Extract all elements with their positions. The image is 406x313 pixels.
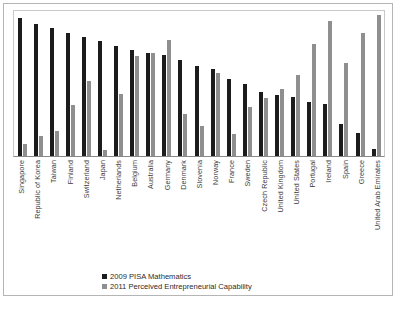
bar-group [127, 11, 143, 156]
bar-pisa-mathematics [146, 53, 150, 156]
bar-perceived-entrepreneurial-capability [377, 15, 381, 156]
bar-group [30, 11, 46, 156]
bar-group [255, 11, 271, 156]
bar-perceived-entrepreneurial-capability [23, 144, 27, 156]
x-axis-tick: Germany [159, 158, 175, 266]
bar-pisa-mathematics [98, 41, 102, 156]
bar-pisa-mathematics [50, 28, 54, 156]
bar-group [368, 11, 384, 156]
bar-pisa-mathematics [18, 18, 22, 156]
bar-perceived-entrepreneurial-capability [280, 89, 284, 156]
bar-group [239, 11, 255, 156]
x-axis-tick: Finland [62, 158, 78, 266]
bar-perceived-entrepreneurial-capability [119, 94, 123, 156]
x-axis-tick-label: Taiwan [49, 160, 58, 183]
x-axis-tick-label: Norway [211, 160, 220, 185]
x-axis-tick-label: Ireland [324, 160, 333, 183]
x-axis-tick: Czech Republic [256, 158, 272, 266]
bar-group [352, 11, 368, 156]
bar-perceived-entrepreneurial-capability [296, 75, 300, 156]
bar-perceived-entrepreneurial-capability [248, 107, 252, 156]
plot-area [13, 10, 385, 157]
bar-perceived-entrepreneurial-capability [344, 63, 348, 156]
x-axis-tick: Australia [142, 158, 158, 266]
bar-group [94, 11, 110, 156]
bar-group [78, 11, 94, 156]
bar-perceived-entrepreneurial-capability [328, 21, 332, 156]
bar-pisa-mathematics [130, 50, 134, 156]
x-axis-tick: Japan [94, 158, 110, 266]
bar-group [46, 11, 62, 156]
x-axis-tick: Republic of Korea [29, 158, 45, 266]
bar-perceived-entrepreneurial-capability [216, 73, 220, 156]
x-axis-tick-label: Slovenia [194, 160, 203, 188]
x-axis-tick-label: Denmark [178, 160, 187, 190]
bar-perceived-entrepreneurial-capability [361, 33, 365, 156]
x-axis-tick: Sweden [239, 158, 255, 266]
bar-group [207, 11, 223, 156]
bar-pisa-mathematics [211, 69, 215, 156]
bar-group [14, 11, 30, 156]
bar-pisa-mathematics [339, 124, 343, 156]
bar-pisa-mathematics [323, 104, 327, 156]
legend-item: 2009 PISA Mathematics [102, 272, 252, 281]
x-axis-tick-label: Netherlands [114, 160, 123, 200]
bar-group [175, 11, 191, 156]
legend-swatch-icon [102, 284, 107, 289]
x-axis-tick-label: Czech Republic [259, 160, 268, 212]
bar-perceived-entrepreneurial-capability [167, 40, 171, 156]
bar-perceived-entrepreneurial-capability [183, 114, 187, 156]
bar-pisa-mathematics [291, 97, 295, 156]
bar-perceived-entrepreneurial-capability [264, 98, 268, 156]
bar-group [143, 11, 159, 156]
bar-perceived-entrepreneurial-capability [135, 56, 139, 156]
x-axis-tick: Belgium [126, 158, 142, 266]
x-axis-tick-label: Finland [65, 160, 74, 184]
bar-perceived-entrepreneurial-capability [103, 150, 107, 156]
x-axis-labels: SingaporeRepublic of KoreaTaiwanFinlandS… [13, 158, 385, 266]
x-axis-tick: Norway [207, 158, 223, 266]
x-axis-tick-label: Sweden [243, 160, 252, 187]
legend-item-label: 2011 Perceived Entrepreneurial Capabilit… [110, 282, 252, 291]
bar-group [223, 11, 239, 156]
bar-pisa-mathematics [195, 66, 199, 156]
x-axis-tick: Slovenia [191, 158, 207, 266]
x-axis-tick: Denmark [175, 158, 191, 266]
x-axis-tick-label: United Kingdom [275, 160, 284, 213]
x-axis-tick-label: Switzerland [81, 160, 90, 198]
x-axis-tick-label: Japan [97, 160, 106, 180]
chart-legend: 2009 PISA Mathematics2011 Perceived Entr… [102, 272, 252, 291]
x-axis-tick: Netherlands [110, 158, 126, 266]
x-axis-tick: United Kingdom [272, 158, 288, 266]
x-axis-tick-label: France [227, 160, 236, 183]
x-axis-tick-label: Australia [146, 160, 155, 189]
x-axis-tick: Ireland [320, 158, 336, 266]
bar-group [320, 11, 336, 156]
bar-group [191, 11, 207, 156]
x-axis-tick: Taiwan [45, 158, 61, 266]
bar-pisa-mathematics [114, 46, 118, 156]
bar-pisa-mathematics [356, 133, 360, 156]
bar-perceived-entrepreneurial-capability [71, 105, 75, 156]
x-axis-tick-label: Portugal [308, 160, 317, 188]
x-axis-tick-label: Singapore [17, 160, 26, 194]
bar-perceived-entrepreneurial-capability [39, 136, 43, 156]
bar-pisa-mathematics [227, 79, 231, 156]
legend-item: 2011 Perceived Entrepreneurial Capabilit… [102, 282, 252, 291]
bar-pisa-mathematics [307, 102, 311, 156]
bar-perceived-entrepreneurial-capability [55, 131, 59, 156]
x-axis-tick-label: Germany [162, 160, 171, 190]
bar-group [336, 11, 352, 156]
x-axis-tick: Spain [336, 158, 352, 266]
x-axis-tick-label: Spain [340, 160, 349, 179]
x-axis-tick-label: Republic of Korea [33, 160, 42, 219]
x-axis-tick-label: Greece [356, 160, 365, 184]
bar-group [159, 11, 175, 156]
bar-pisa-mathematics [259, 92, 263, 156]
x-axis-tick: United Arab Emirates [369, 158, 385, 266]
x-axis-tick-label: United States [292, 160, 301, 204]
bar-perceived-entrepreneurial-capability [87, 81, 91, 156]
bar-pisa-mathematics [243, 84, 247, 157]
x-axis-tick-label: United Arab Emirates [372, 160, 381, 230]
x-axis-tick: Switzerland [78, 158, 94, 266]
